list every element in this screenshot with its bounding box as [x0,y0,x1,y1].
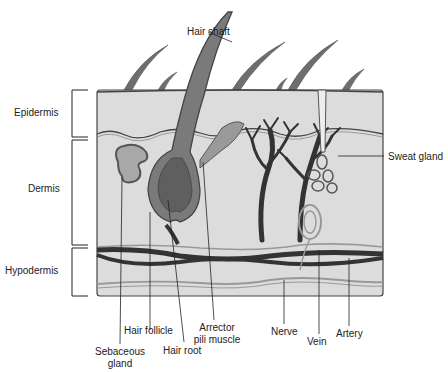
label-arrector-line2: pili muscle [190,334,244,346]
label-vein: Vein [307,336,326,348]
label-artery: Artery [336,328,363,340]
surface-hairs [124,40,364,90]
label-epidermis: Epidermis [14,107,58,119]
label-hair-follicle: Hair follicle [124,325,173,337]
skin-diagram [0,0,448,372]
label-sweat-gland: Sweat gland [388,151,443,163]
label-arrector-pili: Arrector pili muscle [190,322,244,346]
label-hair-shaft: Hair shaft [187,26,230,38]
label-nerve: Nerve [271,326,298,338]
label-hair-root: Hair root [163,345,201,357]
label-arrector-line1: Arrector [190,322,244,334]
label-sebaceous-gland: Sebaceous gland [94,346,146,370]
label-sebaceous-line1: Sebaceous [94,346,146,358]
layer-brackets [72,90,88,296]
label-sebaceous-line2: gland [94,358,146,370]
label-dermis: Dermis [28,183,60,195]
label-hypodermis: Hypodermis [5,265,58,277]
